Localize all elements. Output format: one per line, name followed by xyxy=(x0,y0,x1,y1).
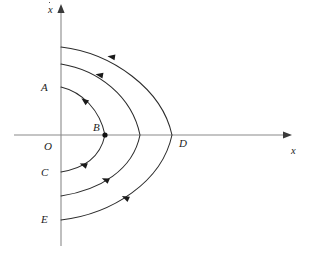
trajectory-curve xyxy=(61,64,140,196)
flow-direction-arrow xyxy=(95,71,103,78)
flow-arrows-group xyxy=(79,53,130,201)
x-axis-arrowhead xyxy=(283,131,292,138)
trajectory-curve xyxy=(61,47,172,220)
phase-plane-figure: ABCDEO x x xyxy=(0,0,309,264)
point-label-o: O xyxy=(44,141,52,152)
point-label-c: C xyxy=(41,167,48,178)
axes-group xyxy=(14,4,292,246)
flow-direction-arrow xyxy=(80,96,90,105)
y-axis-label: x xyxy=(48,5,53,16)
node-dots-group xyxy=(102,132,107,137)
y-axis-label-text: x xyxy=(48,5,53,16)
x-axis-label: x xyxy=(291,146,296,157)
point-label-b: B xyxy=(93,122,100,133)
y-axis-arrowhead xyxy=(57,4,64,13)
equilibrium-point-dot xyxy=(102,132,107,137)
flow-direction-arrow xyxy=(79,161,88,169)
flow-direction-arrow xyxy=(107,53,115,60)
trajectories-group xyxy=(61,47,172,220)
point-label-e: E xyxy=(41,214,48,225)
point-label-a: A xyxy=(41,82,48,93)
point-label-d: D xyxy=(179,138,187,149)
